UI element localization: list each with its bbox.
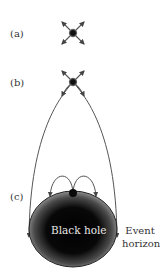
light-source-dot [69, 29, 77, 37]
panel-b-label: (b) [10, 77, 24, 88]
panel-a-label: (a) [10, 28, 24, 39]
event-horizon-line1: Event [122, 224, 158, 237]
black-hole-label: Black hole [51, 224, 107, 236]
light-source-dot [69, 189, 77, 197]
event-horizon-label: Event horizon [122, 224, 158, 250]
panel-c-label: (c) [10, 191, 23, 202]
light-source-dot [69, 78, 77, 86]
panel-a-light-source [62, 22, 84, 44]
event-horizon-line2: horizon [122, 237, 158, 250]
panel-c-black-hole [29, 176, 117, 267]
